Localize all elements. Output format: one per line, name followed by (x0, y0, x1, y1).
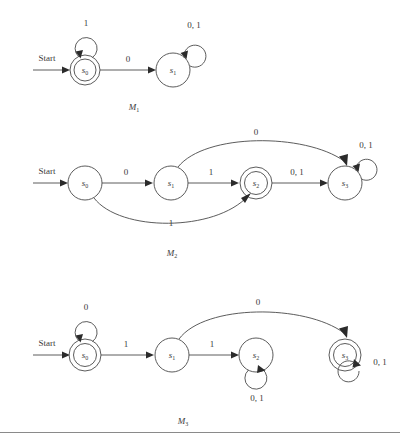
machine-m3: Start s0 0 1 s1 (33, 297, 387, 427)
svg-text:s2: s2 (253, 178, 260, 189)
svg-text:s0: s0 (82, 350, 89, 361)
m1-start-arrow (33, 67, 70, 74)
m2-state-s1: s1 (154, 166, 188, 200)
m1-s0-subscript: 0 (85, 70, 88, 76)
m2-s0-s1-label: 0 (124, 167, 129, 177)
svg-text:s1: s1 (168, 178, 175, 189)
m3-s1-subscript: 1 (172, 355, 175, 361)
m3-start-arrow (33, 352, 70, 359)
m2-transition-s3-s3 (353, 159, 377, 180)
m1-s1-subscript: 1 (173, 70, 176, 76)
m3-s1-s3-label: 0 (256, 297, 261, 307)
m2-start-label: Start (39, 166, 56, 176)
m2-state-s0: s0 (68, 166, 102, 200)
m3-start-label: Start (39, 338, 56, 348)
m3-transition-s1-s3 (179, 312, 348, 339)
m2-s2-subscript: 2 (256, 183, 259, 189)
m3-caption: M3 (177, 416, 189, 427)
m2-start-arrow (33, 180, 68, 187)
m2-s1-s2-label: 1 (209, 167, 214, 177)
m3-s0-s1-label: 1 (124, 339, 129, 349)
m2-s3-subscript: 3 (345, 183, 348, 189)
m1-s0-s1-label: 0 (126, 54, 131, 64)
m3-loop-s2-label: 0, 1 (250, 393, 264, 403)
m2-transition-s2-s3 (272, 180, 328, 187)
m2-loop-s3-label: 0, 1 (359, 140, 373, 150)
m2-state-s3: s3 (328, 166, 362, 200)
m1-transition-s1-s1 (181, 45, 206, 67)
machine-m1: Start s0 1 0 s1 (33, 18, 206, 113)
m1-transition-s0-s1 (100, 67, 156, 74)
m1-loop-s0-label: 1 (84, 18, 89, 28)
svg-text:s3: s3 (342, 350, 349, 361)
m3-state-s2: s2 (239, 338, 273, 372)
m2-s0-subscript: 0 (85, 183, 88, 189)
m3-s1-s2-label: 1 (210, 339, 215, 349)
m2-caption: M2 (166, 248, 178, 259)
m2-s1-subscript: 1 (171, 183, 174, 189)
svg-text:s1: s1 (169, 350, 176, 361)
finite-state-machine-figure: Start s0 1 0 s1 (0, 0, 400, 439)
svg-text:s3: s3 (342, 178, 349, 189)
svg-text:s1: s1 (170, 65, 177, 76)
m1-loop-s1-label: 0, 1 (187, 20, 201, 30)
m2-s2-s3-label: 0, 1 (290, 167, 304, 177)
m2-transition-s1-s2 (188, 180, 239, 187)
m3-transition-s0-s1 (101, 352, 154, 359)
m1-caption: M1 (128, 102, 140, 113)
m2-state-s2: s2 (240, 167, 272, 199)
m3-state-s1: s1 (155, 338, 189, 372)
svg-text:s0: s0 (82, 178, 89, 189)
m3-s0-subscript: 0 (85, 355, 88, 361)
m1-caption-sub: 1 (136, 107, 139, 113)
m2-s1-s3-label: 0 (254, 127, 259, 137)
m2-s0-s2-label: 1 (169, 218, 174, 228)
m3-loop-s0-label: 0 (84, 302, 89, 312)
m1-start-label: Start (39, 53, 56, 63)
m1-state-s0: s0 (70, 55, 100, 85)
svg-text:s0: s0 (82, 65, 89, 76)
m3-s2-subscript: 2 (256, 355, 259, 361)
m3-transition-s2-s2 (245, 365, 267, 389)
m3-s3-subscript: 3 (345, 355, 348, 361)
m3-state-s0: s0 (69, 339, 101, 371)
m3-caption-sub: 3 (185, 421, 188, 427)
m2-transition-s1-s3 (178, 141, 348, 167)
m2-transition-s0-s1 (102, 180, 153, 187)
m1-state-s1: s1 (156, 53, 190, 87)
m3-loop-s3-label: 0, 1 (373, 357, 387, 367)
machine-m2: Start s0 0 s1 1 (33, 127, 377, 259)
m2-caption-sub: 2 (174, 253, 177, 259)
m3-transition-s1-s2 (189, 352, 239, 359)
svg-text:s2: s2 (253, 350, 260, 361)
